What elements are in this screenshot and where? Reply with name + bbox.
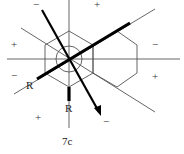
sign-right-upper: − — [152, 38, 158, 50]
label-r-bottom: R — [65, 102, 73, 114]
bold-bond-ne — [37, 23, 130, 79]
sign-bottom-left: + — [35, 111, 41, 123]
sign-right-lower: + — [152, 70, 158, 82]
sign-left-upper: + — [11, 38, 17, 50]
sign-left-lower: − — [11, 69, 17, 81]
diagonal-line-nw-se — [21, 28, 155, 112]
figure-caption: 7c — [62, 135, 73, 147]
nodal-plane-diagram: R R − + + − − + + − 7c — [0, 0, 184, 154]
sign-bottom-right: − — [103, 115, 109, 127]
sign-top-left: − — [33, 0, 39, 10]
label-r-left: R — [26, 79, 34, 91]
sign-top-right: + — [94, 0, 100, 10]
